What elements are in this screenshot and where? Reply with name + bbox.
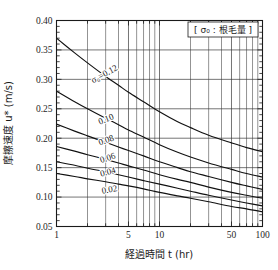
x-tick-label: 5 [126, 230, 131, 240]
x-tick-label: 50 [227, 230, 237, 240]
x-axis-title: 経過時間 t (hr) [125, 248, 194, 260]
y-tick-label: 0.40 [36, 16, 53, 26]
x-tick-label: 100 [255, 230, 270, 240]
y-tick-label: 0.35 [36, 45, 53, 55]
y-tick-label: 0.30 [36, 75, 53, 85]
y-tick-label: 0.10 [36, 192, 53, 202]
y-tick-label: 0.20 [36, 134, 53, 144]
y-tick-label: 0.15 [36, 163, 53, 173]
y-axis-title: 摩擦速度 u* (m/s) [2, 81, 14, 165]
legend-note-label: [ σ₀ : 根毛量 ] [194, 24, 252, 35]
y-tick-label: 0.25 [36, 104, 53, 114]
x-tick-label: 10 [155, 230, 165, 240]
chart-figure: 0.050.100.150.200.250.300.350.40 1510501… [0, 0, 278, 270]
y-tick-label: 0.05 [36, 222, 53, 232]
legend-note-box: [ σ₀ : 根毛量 ] [188, 22, 258, 37]
x-tick-label: 1 [54, 230, 59, 240]
